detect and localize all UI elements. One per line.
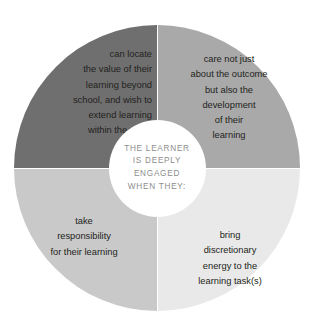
segment-top-left-line-2: the value of their <box>18 62 152 77</box>
segment-top-left-line-3: learning beyond <box>18 78 152 93</box>
center-hub: THE LEARNER IS DEEPLY ENGAGED WHEN THEY: <box>109 120 206 217</box>
center-label-line-4: WHEN THEY: <box>128 181 186 194</box>
center-label-line-3: ENGAGED <box>134 168 180 181</box>
segment-bottom-right-line-3: energy to the <box>168 259 292 274</box>
segment-bottom-left-label: take responsibility for their learning <box>16 214 152 260</box>
segment-bottom-left-line-3: for their learning <box>16 245 152 260</box>
segment-top-left-line-4: school, and wish to <box>18 93 152 108</box>
segment-top-right-line-3: but also the <box>168 83 290 98</box>
segment-top-right-line-5: of their <box>168 113 290 128</box>
segment-top-right-line-4: development <box>168 98 290 113</box>
segment-top-right-line-2: about the outcome <box>168 67 290 82</box>
center-label-line-1: THE LEARNER <box>124 143 190 156</box>
segment-bottom-right-label: bring discretionary energy to the learni… <box>168 228 292 289</box>
segment-bottom-left-line-2: responsibility <box>16 229 152 244</box>
center-label-line-2: IS DEEPLY <box>133 155 181 168</box>
segment-bottom-right-line-4: learning task(s) <box>168 274 292 289</box>
learner-engagement-diagram: THE LEARNER IS DEEPLY ENGAGED WHEN THEY:… <box>0 0 318 335</box>
segment-bottom-right-line-1: bring <box>168 228 292 243</box>
segment-bottom-left-line-1: take <box>16 214 152 229</box>
segment-top-right-line-1: care not just <box>168 52 290 67</box>
segment-top-left-line-5: extend learning <box>18 108 152 123</box>
segment-top-left-line-1: can locate <box>18 47 152 62</box>
segment-bottom-right-line-2: discretionary <box>168 243 292 258</box>
